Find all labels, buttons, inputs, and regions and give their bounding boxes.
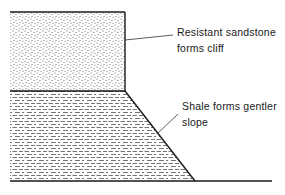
sandstone-label-line1: Resistant sandstone (177, 24, 276, 40)
sandstone-label: Resistant sandstone forms cliff (177, 24, 276, 56)
shale-layer (10, 91, 195, 181)
shale-label: Shale forms gentler slope (182, 98, 277, 130)
shale-leader-line (157, 114, 178, 134)
shale-label-line1: Shale forms gentler (182, 98, 277, 114)
shale-label-line2: slope (182, 114, 277, 130)
sandstone-leader-line (125, 35, 173, 40)
sandstone-layer (10, 12, 125, 91)
sandstone-label-line2: forms cliff (177, 40, 276, 56)
